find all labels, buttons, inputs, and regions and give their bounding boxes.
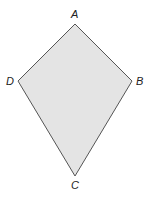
kite-shape (18, 24, 132, 176)
vertex-label-d: D (6, 75, 14, 87)
vertex-label-c: C (71, 179, 79, 191)
vertex-label-a: A (70, 8, 78, 20)
vertex-label-b: B (136, 75, 143, 87)
kite-diagram: A B C D (0, 0, 155, 198)
